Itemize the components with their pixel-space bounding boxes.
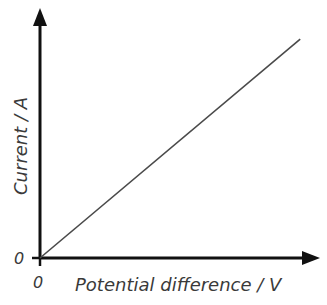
y-axis-label: Current / A (10, 97, 31, 195)
x-axis-arrowhead-icon (302, 251, 320, 265)
y-tick-label-0: 0 (14, 249, 24, 268)
x-tick-label-0: 0 (33, 273, 43, 292)
axes (32, 8, 320, 266)
series-line-0 (40, 39, 300, 258)
y-axis-arrowhead-icon (33, 8, 47, 26)
series-layer (40, 39, 300, 258)
chart: 0 0 Potential difference / V Current / A (0, 0, 327, 305)
x-axis-label: Potential difference / V (75, 274, 283, 295)
